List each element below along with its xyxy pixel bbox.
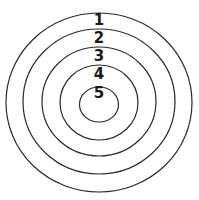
- ring-3-label: 3: [94, 47, 104, 65]
- ring-4: 4: [60, 65, 138, 140]
- target-diagram: 1 2 3 4 5: [0, 0, 199, 200]
- ring-1-label: 1: [94, 11, 104, 29]
- ring-2-label: 2: [94, 29, 104, 47]
- ring-4-label: 4: [94, 65, 104, 83]
- ring-5-label: 5: [94, 84, 104, 102]
- ring-5: 5: [80, 84, 119, 122]
